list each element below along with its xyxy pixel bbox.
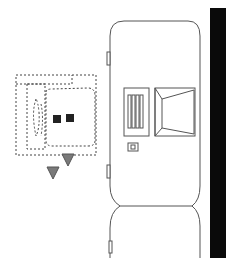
triangle-marker-icon [62, 154, 74, 166]
diagram-canvas [0, 0, 236, 274]
side-tab-icon [109, 241, 112, 253]
dark-square [66, 114, 74, 122]
side-tab-icon [107, 165, 110, 178]
small-switch-icon [128, 143, 138, 151]
vent-panel [124, 88, 149, 136]
triangle-marker-icon [47, 167, 59, 179]
dark-square [53, 115, 61, 123]
black-bar [210, 8, 226, 258]
trapezoid-panel [155, 88, 195, 136]
upper-body-outline [110, 21, 200, 258]
side-tab-icon [107, 52, 110, 65]
